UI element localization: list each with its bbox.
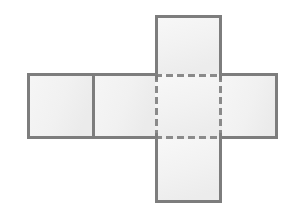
- center-face-fill: [155, 74, 222, 139]
- cube-net-diagram: [0, 0, 296, 218]
- left-inner-face-fill: [93, 73, 155, 139]
- face-fills: [27, 15, 278, 203]
- figure-canvas: Net of a cube (cross layout): [0, 0, 296, 218]
- left-outer-face-fill: [27, 73, 93, 139]
- bottom-face-fill: [155, 139, 222, 203]
- top-face-fill: [155, 15, 222, 74]
- right-face-fill: [222, 73, 278, 139]
